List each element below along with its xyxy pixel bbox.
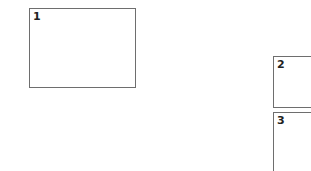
panel-1: 1 — [29, 8, 136, 88]
panel-3: 3 — [273, 112, 311, 171]
panel-1-label: 1 — [33, 11, 41, 22]
panel-2: 2 — [273, 56, 311, 108]
panel-2-label: 2 — [277, 59, 285, 70]
panel-3-label: 3 — [277, 115, 285, 126]
